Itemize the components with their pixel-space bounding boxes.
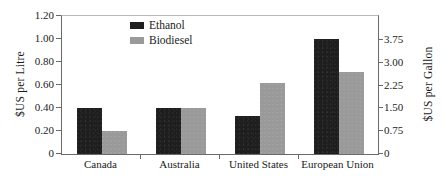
bar-ethanol-australia	[156, 108, 181, 154]
bar-ethanol-european-union	[314, 39, 339, 154]
legend-item-biodiesel: Biodiesel	[130, 33, 192, 47]
y-tick-label-right: 0	[384, 147, 424, 159]
y-tick-label-left: 1.20	[14, 9, 54, 21]
bar-chart: $US per Litre $US per Gallon 00.200.400.…	[0, 0, 446, 178]
y-tick-label-right: 3.75	[384, 33, 424, 45]
bar-biodiesel-united-states	[260, 83, 285, 154]
x-tick-label-australia: Australia	[140, 158, 219, 170]
y-tick-label-left: 0.80	[14, 55, 54, 67]
chart-legend: Ethanol Biodiesel	[130, 18, 192, 48]
y-tick-label-right: 1.50	[384, 101, 424, 113]
y-tick-label-right: 2.25	[384, 79, 424, 91]
x-tick-label-united-states: United States	[219, 158, 298, 170]
bar-ethanol-canada	[77, 108, 102, 154]
plot-area	[61, 15, 379, 155]
bar-biodiesel-australia	[181, 108, 206, 154]
bar-ethanol-united-states	[235, 116, 260, 154]
legend-label-biodiesel: Biodiesel	[149, 34, 192, 46]
legend-item-ethanol: Ethanol	[130, 18, 192, 32]
y-tick-label-right: 0.75	[384, 124, 424, 136]
y-tick-label-left: 0.40	[14, 101, 54, 113]
legend-swatch-icon-ethanol	[130, 22, 144, 29]
bar-biodiesel-european-union	[339, 72, 364, 154]
y-tick-label-right: 3.00	[384, 56, 424, 68]
y-tick-label-left: 0.20	[14, 124, 54, 136]
x-tick-label-european-union: European Union	[298, 158, 377, 170]
y-tick-label-left: 1.00	[14, 32, 54, 44]
legend-swatch-icon-biodiesel	[130, 37, 144, 44]
bar-biodiesel-canada	[102, 131, 127, 154]
y-tick-label-left: 0	[14, 147, 54, 159]
x-tick-label-canada: Canada	[61, 158, 140, 170]
legend-label-ethanol: Ethanol	[149, 19, 185, 31]
y-tick-label-left: 0.60	[14, 78, 54, 90]
